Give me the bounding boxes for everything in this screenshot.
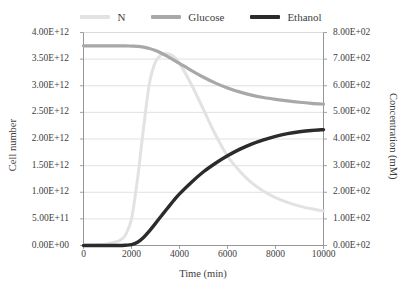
series-line-ethanol bbox=[84, 130, 324, 246]
series-lines bbox=[84, 46, 324, 246]
chart-container: N Glucose Ethanol Cell number Concentrat… bbox=[0, 0, 402, 291]
series-line-n bbox=[84, 54, 324, 245]
plot-area bbox=[0, 0, 402, 291]
tick-marks bbox=[80, 33, 327, 250]
gridlines bbox=[84, 33, 324, 219]
series-line-glucose bbox=[84, 46, 324, 104]
